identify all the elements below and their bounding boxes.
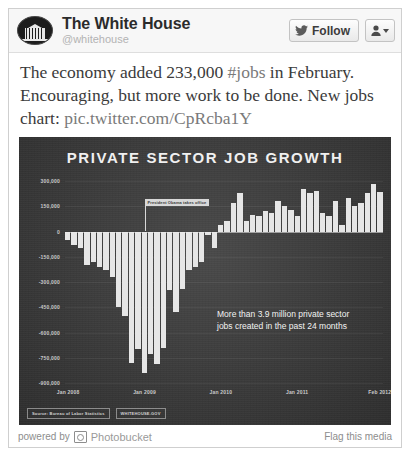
tweet-text-line-2: Encouraging, but more work to be done. N… (20, 85, 374, 105)
chart-bar-rect (148, 232, 153, 355)
chart-bar (346, 181, 351, 383)
chart-bar (212, 181, 217, 383)
chart-bar-rect (275, 201, 280, 231)
chart-bar (129, 181, 134, 383)
chart-bar-rect (269, 213, 274, 232)
chart-bar (250, 181, 255, 383)
chart-bar-rect (122, 232, 127, 316)
obama-inauguration-marker-stem (145, 205, 146, 231)
chart-bar-rect (250, 215, 255, 232)
chart-bar (282, 181, 287, 383)
chart-bar (218, 181, 223, 383)
chart-bar-rect (339, 225, 344, 232)
chart-bar (161, 181, 166, 383)
chart-bar (288, 181, 293, 383)
chart-bar (116, 181, 121, 383)
follow-button-label: Follow (312, 24, 350, 38)
flag-this-media-link[interactable]: Flag this media (324, 431, 392, 442)
chart-bar-rect (218, 225, 223, 232)
chart-bar-rect (173, 232, 178, 313)
tweet-hashtag[interactable]: #jobs (228, 62, 266, 82)
chevron-down-icon (383, 29, 389, 33)
chart-y-axis-label: 0 (57, 229, 60, 235)
chart-bar-rect (224, 221, 229, 231)
chart-bar-rect (167, 232, 172, 291)
chart-bar (205, 181, 210, 383)
chart-bar (237, 181, 242, 383)
tweet-media-widget: The White House @whitehouse Follow The e… (8, 8, 402, 448)
chart-bar (110, 181, 115, 383)
white-house-seal-avatar[interactable] (17, 16, 53, 45)
chart-bar-rect (377, 192, 382, 231)
job-growth-chart-image[interactable]: PRIVATE SECTOR JOB GROWTH 300,000150,000… (19, 137, 391, 425)
chart-bar (358, 181, 363, 383)
chart-bar (148, 181, 153, 383)
chart-y-axis-label: 150,000 (41, 203, 60, 209)
account-identity: The White House @whitehouse (62, 15, 289, 46)
chart-bar (154, 181, 159, 383)
chart-bar (365, 181, 370, 383)
chart-bar-rect (78, 232, 83, 249)
chart-brand-note: WHITEHOUSE.GOV (116, 408, 166, 419)
chart-bar (122, 181, 127, 383)
chart-y-axis-label: -900,000 (39, 380, 60, 386)
tweet-pic-link[interactable]: pic.twitter.com/CpRcba1Y (64, 108, 252, 128)
chart-bar-rect (84, 232, 89, 266)
chart-footer: Source: Bureau of Labor Statistics WHITE… (27, 408, 166, 419)
chart-bar-rect (365, 193, 370, 232)
person-icon (371, 25, 381, 36)
chart-x-axis-label: Jan 2011 (286, 389, 308, 395)
chart-bar-rect (91, 232, 96, 262)
follow-button[interactable]: Follow (289, 19, 359, 42)
avatar-columns-shape (26, 28, 44, 39)
chart-bars (65, 181, 383, 383)
chart-bar-rect (231, 203, 236, 232)
chart-bar (167, 181, 172, 383)
chart-bar-rect (103, 232, 108, 271)
chart-bar (307, 181, 312, 383)
chart-bar-rect (97, 232, 102, 267)
chart-bar (84, 181, 89, 383)
jobs-created-callout: More than 3.9 million private sector job… (217, 309, 377, 332)
chart-y-axis-label: -750,000 (39, 355, 60, 361)
tweet-text-part-2: in February. (265, 62, 354, 82)
chart-bar-rect (320, 213, 325, 232)
chart-bar (199, 181, 204, 383)
chart-y-axis-label: -600,000 (39, 330, 60, 336)
chart-bar (244, 181, 249, 383)
chart-bar (71, 181, 76, 383)
tweet-text: The economy added 233,000 #jobs in Febru… (9, 53, 401, 137)
chart-bar-rect (193, 232, 198, 267)
chart-bar-rect (199, 232, 204, 262)
chart-bar-rect (142, 232, 147, 373)
account-name[interactable]: The White House (62, 15, 289, 32)
chart-bar (78, 181, 83, 383)
chart-bar-rect (295, 216, 300, 231)
chart-bar (333, 181, 338, 383)
chart-bar (173, 181, 178, 383)
chart-bar-rect (186, 232, 191, 271)
chart-plot-area: 300,000150,0000-150,000-300,000-450,000-… (65, 181, 383, 383)
chart-bar (186, 181, 191, 383)
chart-bar (339, 181, 344, 383)
chart-source-note: Source: Bureau of Labor Statistics (27, 408, 110, 419)
chart-bar-rect (371, 184, 376, 231)
powered-by-group: powered by Photobucket (18, 431, 152, 443)
photobucket-footer: powered by Photobucket Flag this media (9, 425, 401, 447)
chart-zero-line (65, 232, 383, 233)
chart-y-axis-label: 300,000 (41, 178, 60, 184)
chart-bar-rect (358, 203, 363, 232)
account-handle[interactable]: @whitehouse (62, 33, 289, 46)
chart-bar (103, 181, 108, 383)
chart-y-axis-label: -150,000 (39, 254, 60, 260)
chart-bar (91, 181, 96, 383)
chart-gridline (65, 383, 383, 384)
user-menu-button[interactable] (365, 19, 395, 42)
chart-bar-rect (237, 193, 242, 232)
chart-bar (97, 181, 102, 383)
chart-bar-rect (346, 198, 351, 232)
chart-bar-rect (263, 211, 268, 231)
chart-x-axis-label: Jan 2010 (209, 389, 232, 395)
chart-bar (320, 181, 325, 383)
photobucket-brand-label[interactable]: Photobucket (91, 431, 152, 443)
